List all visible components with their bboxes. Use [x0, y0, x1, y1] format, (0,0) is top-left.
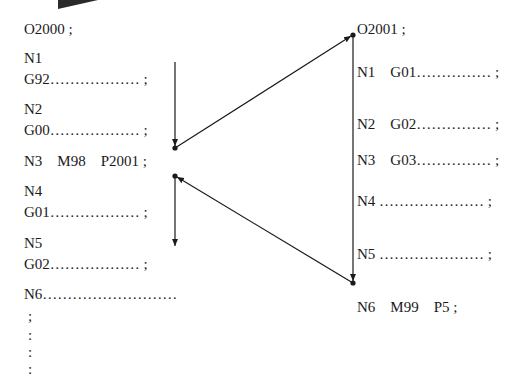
arrow-call-subprogram — [175, 36, 351, 148]
flow-arrows — [0, 0, 521, 387]
node-dot-return — [172, 173, 177, 178]
arrow-return-main — [177, 177, 353, 283]
node-dot-sub-end — [350, 280, 355, 285]
node-dot-call — [172, 145, 177, 150]
node-dot-sub-start — [350, 32, 355, 37]
